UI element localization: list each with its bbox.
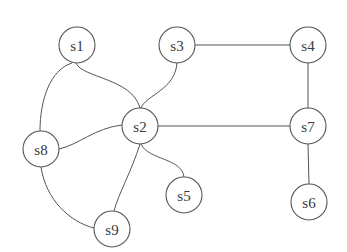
edge-s7-s6 bbox=[308, 144, 309, 184]
edge-s1-s8 bbox=[40, 63, 72, 131]
node-label: s8 bbox=[34, 142, 47, 158]
edge-s3-s2 bbox=[141, 63, 177, 108]
node-s2: s2 bbox=[122, 108, 158, 144]
graph-diagram: s1s2s3s4s5s6s7s8s9 bbox=[0, 0, 347, 252]
node-s7: s7 bbox=[290, 108, 326, 144]
node-label: s2 bbox=[133, 119, 146, 135]
node-s8: s8 bbox=[23, 131, 59, 167]
node-label: s9 bbox=[105, 222, 118, 238]
edge-s1-s2 bbox=[76, 63, 140, 108]
edge-s2-s8 bbox=[59, 125, 122, 149]
node-label: s3 bbox=[170, 38, 183, 54]
node-label: s1 bbox=[70, 38, 83, 54]
node-s5: s5 bbox=[166, 177, 202, 213]
node-s4: s4 bbox=[290, 27, 326, 63]
edge-s2-s5 bbox=[141, 144, 184, 177]
node-label: s5 bbox=[177, 188, 190, 204]
node-s3: s3 bbox=[159, 27, 195, 63]
node-s1: s1 bbox=[59, 27, 95, 63]
node-label: s7 bbox=[301, 119, 315, 135]
node-s9: s9 bbox=[94, 211, 130, 247]
edge-s8-s9 bbox=[41, 167, 94, 228]
node-label: s6 bbox=[302, 195, 316, 211]
node-s6: s6 bbox=[291, 184, 327, 220]
nodes-layer: s1s2s3s4s5s6s7s8s9 bbox=[23, 27, 327, 247]
node-label: s4 bbox=[301, 38, 315, 54]
edge-s2-s9 bbox=[114, 144, 140, 211]
